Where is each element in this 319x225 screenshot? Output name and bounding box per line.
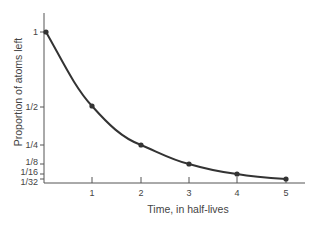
data-point-5	[283, 176, 288, 181]
data-point-0	[43, 29, 48, 34]
y-tick-sixteenth: 1/16	[20, 167, 38, 177]
data-point-4	[234, 171, 239, 176]
y-tick-quarter: 1/4	[25, 140, 38, 150]
y-tick-eighth: 1/8	[25, 157, 38, 167]
chart-canvas: 1 1/2 1/4 1/8 1/16 1/32 1 2 3 4 5 Time, …	[0, 0, 319, 225]
y-tick-thirtysecond: 1/32	[20, 177, 38, 187]
y-tick-half: 1/2	[25, 102, 38, 112]
y-tick-1: 1	[33, 27, 38, 37]
y-axis-title: Proportion of atoms left	[12, 38, 24, 147]
data-points	[43, 29, 288, 181]
x-tick-labels: 1 2 3 4 5	[89, 188, 288, 198]
x-tick-2: 2	[138, 188, 143, 198]
x-tick-5: 5	[283, 188, 288, 198]
x-tick-4: 4	[234, 188, 239, 198]
data-point-1	[89, 103, 94, 108]
data-point-3	[186, 161, 191, 166]
data-point-2	[138, 142, 143, 147]
y-ticks	[40, 32, 44, 179]
x-tick-3: 3	[186, 188, 191, 198]
x-tick-1: 1	[89, 188, 94, 198]
x-ticks	[92, 177, 286, 183]
decay-curve	[46, 32, 286, 179]
x-axis-title: Time, in half-lives	[147, 203, 228, 215]
